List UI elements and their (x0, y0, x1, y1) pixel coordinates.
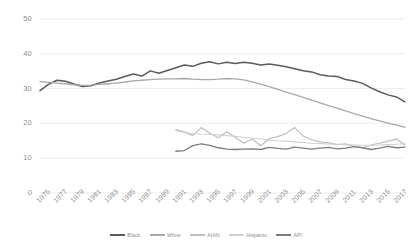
legend-swatch-aian-icon (190, 234, 205, 236)
legend-swatch-api-icon (276, 234, 291, 236)
legend-item-hispanic[interactable]: Hispanic (229, 232, 267, 238)
gridlines (40, 19, 405, 193)
legend-item-api[interactable]: API (276, 232, 302, 238)
legend-swatch-hispanic-icon (229, 234, 244, 236)
legend-label-aian: AIAN (207, 232, 220, 238)
legend-item-black[interactable]: Black (110, 232, 141, 238)
legend-label-hispanic: Hispanic (246, 232, 267, 238)
legend-item-aian[interactable]: AIAN (190, 232, 220, 238)
legend-label-white: White (167, 232, 181, 238)
line-chart: 01020304050 1975197719791981198319851987… (0, 0, 412, 252)
legend-item-white[interactable]: White (150, 232, 181, 238)
y-tick-label-20: 20 (10, 119, 32, 127)
y-tick-label-0: 0 (10, 189, 32, 197)
series-lines (40, 62, 405, 151)
legend-label-black: Black (127, 232, 140, 238)
legend-label-api: API (294, 232, 303, 238)
y-tick-label-30: 30 (10, 85, 32, 93)
series-line-aian (176, 128, 405, 148)
legend-swatch-white-icon (150, 234, 165, 236)
series-line-black (40, 62, 405, 102)
series-line-white (40, 79, 405, 128)
y-tick-label-10: 10 (10, 154, 32, 162)
chart-legend: BlackWhiteAIANHispanicAPI (0, 228, 412, 242)
y-tick-label-40: 40 (10, 50, 32, 58)
legend-swatch-black-icon (110, 234, 125, 236)
chart-plot-area (0, 0, 412, 252)
y-tick-label-50: 50 (10, 15, 32, 23)
